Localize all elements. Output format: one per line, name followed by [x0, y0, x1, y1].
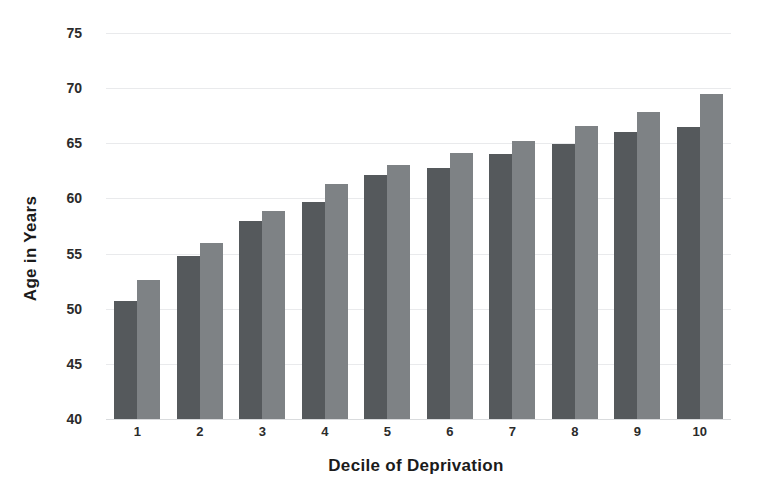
x-tick-label: 8: [544, 424, 607, 448]
bar: [114, 301, 137, 419]
bar-group: [231, 33, 294, 419]
bar: [450, 153, 473, 419]
x-axis-title: Decile of Deprivation: [96, 456, 736, 476]
bar: [302, 202, 325, 419]
bar: [200, 243, 223, 419]
bar-group: [544, 33, 607, 419]
y-tick-label: 40: [66, 411, 82, 427]
x-tick-label: 1: [106, 424, 169, 448]
bars-layer: [106, 33, 731, 419]
y-tick-label: 60: [66, 190, 82, 206]
bar-group: [294, 33, 357, 419]
bar: [364, 175, 387, 419]
bar: [137, 280, 160, 419]
y-axis-tick-labels: 4045505560657075: [0, 33, 96, 419]
y-tick-label: 55: [66, 246, 82, 262]
bar: [677, 127, 700, 419]
bar: [575, 126, 598, 419]
bar: [614, 132, 637, 419]
x-tick-label: 6: [419, 424, 482, 448]
x-tick-label: 7: [481, 424, 544, 448]
bar-group: [419, 33, 482, 419]
bar: [637, 112, 660, 419]
bar-group: [669, 33, 732, 419]
x-axis-tick-labels: 12345678910: [106, 424, 731, 448]
bar-group: [169, 33, 232, 419]
y-tick-label: 65: [66, 135, 82, 151]
plot-area: [106, 33, 731, 419]
y-tick-label: 50: [66, 301, 82, 317]
bar-group: [481, 33, 544, 419]
bar-chart: Age in Years 4045505560657075 1234567891…: [0, 0, 764, 497]
x-tick-label: 4: [294, 424, 357, 448]
bar: [177, 256, 200, 419]
x-tick-label: 3: [231, 424, 294, 448]
bar-group: [106, 33, 169, 419]
bar-group: [606, 33, 669, 419]
bar: [325, 184, 348, 419]
bar: [489, 154, 512, 419]
bar: [427, 168, 450, 419]
x-tick-label: 2: [169, 424, 232, 448]
y-tick-label: 45: [66, 356, 82, 372]
x-tick-label: 9: [606, 424, 669, 448]
gridline: [106, 419, 731, 420]
bar: [700, 94, 723, 419]
y-tick-label: 70: [66, 80, 82, 96]
bar: [552, 144, 575, 419]
bar: [387, 165, 410, 419]
bar-group: [356, 33, 419, 419]
bar: [239, 221, 262, 420]
x-tick-label: 10: [669, 424, 732, 448]
x-tick-label: 5: [356, 424, 419, 448]
bar: [262, 211, 285, 419]
y-tick-label: 75: [66, 25, 82, 41]
bar: [512, 141, 535, 419]
